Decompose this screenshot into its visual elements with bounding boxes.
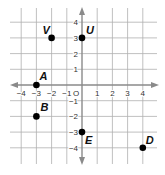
x-tick-label: −4: [17, 89, 27, 98]
x-tick-label: 4: [141, 89, 146, 98]
point-v: V: [43, 24, 55, 41]
origin-label: O: [73, 89, 79, 98]
point-label: D: [146, 134, 154, 146]
x-tick-label: 1: [95, 89, 100, 98]
point-marker: [79, 35, 86, 42]
y-tick-label: 3: [74, 34, 79, 43]
point-e: E: [79, 129, 93, 146]
point-marker: [33, 113, 40, 120]
point-u: U: [79, 24, 95, 41]
y-tick-label: −3: [69, 128, 79, 137]
y-tick-label: 4: [74, 18, 79, 27]
y-axis-down-arrow-icon: [79, 157, 85, 165]
y-tick-label: 1: [74, 65, 79, 74]
x-tick-label: −3: [32, 89, 42, 98]
point-label: E: [85, 134, 93, 146]
x-tick-label: −2: [47, 89, 57, 98]
y-axis-up-arrow-icon: [79, 7, 85, 15]
point-b: B: [33, 101, 48, 119]
y-tick-label: −4: [69, 144, 79, 153]
y-tick-label: −2: [69, 112, 79, 121]
point-label: A: [38, 70, 47, 82]
grid-lines: [10, 8, 157, 164]
x-axis-left-arrow-icon: [10, 82, 18, 88]
x-tick-label: 2: [110, 89, 115, 98]
point-label: V: [43, 24, 52, 36]
x-tick-label: 3: [125, 89, 130, 98]
y-tick-label: −1: [69, 97, 79, 106]
y-tick-label: 2: [74, 50, 79, 59]
coordinate-plane: −4−3−2−112344321−1−2−3−4O VUABED: [0, 0, 165, 175]
point-label: B: [40, 101, 48, 113]
point-marker: [33, 82, 40, 89]
x-axis-right-arrow-icon: [151, 82, 159, 88]
point-d: D: [140, 134, 154, 151]
point-label: U: [86, 24, 95, 36]
